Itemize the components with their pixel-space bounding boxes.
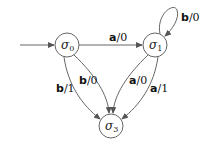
edge-label-s0-s3-b0: b/0 bbox=[79, 74, 98, 87]
state-diagram: σ0 σ1 σ3 a/0 b/0 b/0 b/1 a/0 a/1 bbox=[0, 0, 212, 146]
edge-label-s1-s3-a0: a/0 bbox=[129, 74, 147, 87]
edge-label-s0-s1: a/0 bbox=[109, 31, 127, 44]
edge-label-s1-loop: b/0 bbox=[181, 11, 200, 24]
edge-label-s1-s3-a1: a/1 bbox=[150, 82, 168, 95]
edge-s1-loop bbox=[159, 7, 177, 36]
edge-label-s0-s3-b1: b/1 bbox=[56, 82, 75, 95]
